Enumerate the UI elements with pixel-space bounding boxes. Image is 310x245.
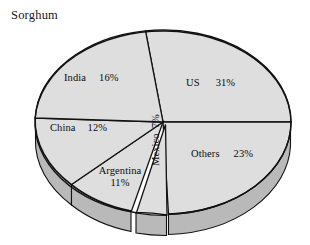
slice-label-others-name: Others bbox=[191, 148, 220, 159]
slice-label-india-value: 16% bbox=[99, 72, 119, 83]
side-wall-mexico bbox=[136, 213, 167, 236]
slice-label-china-value: 12% bbox=[88, 122, 108, 133]
slice-label-india: India16% bbox=[64, 72, 119, 84]
slice-label-argentina: Argentina 11% bbox=[84, 165, 156, 190]
slice-label-argentina-value: 11% bbox=[84, 177, 156, 189]
slice-label-mexico-name: Mexico bbox=[150, 133, 161, 166]
pie-slice-others[interactable] bbox=[163, 122, 291, 214]
slice-label-china-name: China bbox=[50, 122, 76, 133]
slice-label-china: China12% bbox=[50, 122, 107, 134]
slice-label-mexico: Mexico7% bbox=[150, 106, 162, 166]
slice-label-us-name: US bbox=[186, 77, 200, 88]
chart-canvas: Sorghum bbox=[0, 0, 310, 245]
slice-label-us-value: 31% bbox=[216, 77, 236, 88]
pie-slice-us[interactable] bbox=[146, 30, 292, 122]
slice-label-others: Others23% bbox=[191, 148, 253, 160]
slice-label-others-value: 23% bbox=[234, 148, 254, 159]
slice-label-mexico-value: 7% bbox=[150, 114, 161, 128]
slice-label-argentina-name: Argentina bbox=[84, 165, 156, 177]
slice-label-india-name: India bbox=[64, 72, 86, 83]
slice-label-us: US31% bbox=[186, 77, 235, 89]
